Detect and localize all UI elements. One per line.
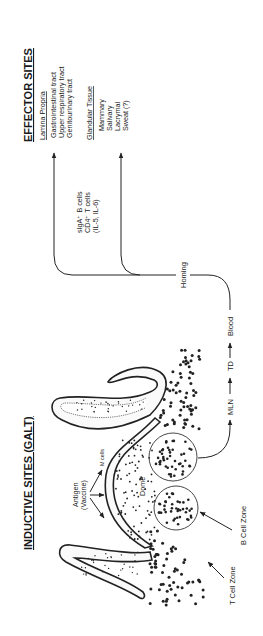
lymphocyte-dot	[128, 442, 130, 444]
lymphocyte-dot	[94, 411, 95, 412]
lymphocyte-dot	[180, 453, 183, 456]
lymphocyte-dot	[118, 402, 119, 403]
lymphocyte-dot	[168, 496, 171, 499]
lymphocyte-dot	[83, 573, 84, 574]
lymphocyte-dot	[179, 509, 182, 512]
lymphocyte-dot	[179, 363, 182, 366]
lymphocyte-dot	[145, 532, 147, 534]
lymphocyte-dot	[150, 542, 153, 545]
lymphocyte-dot	[85, 567, 86, 568]
lymphocyte-dot	[140, 445, 142, 447]
lymphocyte-dot	[140, 449, 142, 451]
cell-types-label: sIgA⁺ B cells CD4⁺ T cells (IL-5, IL-6)	[75, 191, 100, 233]
lymphocyte-dot	[159, 460, 162, 463]
lymphocyte-dot	[186, 507, 189, 510]
lymphocyte-dot	[189, 404, 192, 407]
lymphocyte-dot	[182, 405, 185, 408]
lymphocyte-dot	[124, 502, 126, 504]
lymphocyte-dot	[117, 476, 119, 478]
lymphocyte-dot	[150, 571, 153, 574]
lymphocyte-dot	[170, 510, 173, 513]
lymphocyte-dot	[149, 588, 152, 591]
lymphocyte-dot	[85, 573, 86, 574]
lymphocyte-dot	[183, 418, 186, 421]
lymphocyte-dot	[150, 566, 153, 569]
lymphocyte-dot	[176, 382, 179, 385]
lymphocyte-dot	[132, 506, 134, 508]
lymphocyte-dot	[161, 542, 164, 545]
lymphocyte-dot	[81, 409, 82, 410]
t-cell-zone-label: T Cell Zone	[228, 566, 237, 605]
lymphocyte-dot	[94, 400, 95, 401]
lymph-pathway: Blood TD MLN	[198, 317, 235, 458]
lymphocyte-dot	[91, 402, 92, 403]
lymphocyte-dot	[189, 382, 192, 385]
lymphocyte-dot	[180, 400, 183, 403]
lymphocyte-dot	[125, 464, 127, 466]
lymphocyte-dot	[174, 460, 177, 463]
lymphocyte-dot	[128, 473, 130, 475]
lymphocyte-dot	[81, 403, 82, 404]
lymphocyte-dot	[135, 448, 137, 450]
vaccine-text: (Vaccine)	[79, 480, 88, 510]
lymphocyte-dot	[188, 407, 191, 410]
lymphocyte-dot	[174, 593, 177, 596]
lymphocyte-dot	[175, 391, 178, 394]
lymphocyte-dot	[182, 426, 185, 429]
lymphocyte-dot	[165, 603, 168, 606]
lymphocyte-dot	[185, 359, 188, 362]
lymphocyte-dot	[137, 467, 139, 469]
lymphocyte-dot	[194, 391, 197, 394]
lymphocyte-dot	[124, 564, 125, 565]
lymphocyte-dot	[124, 513, 126, 515]
glandular-tissue-heading: Glandular Tissue	[85, 86, 94, 140]
lymphocyte-dot	[132, 404, 133, 405]
lymphocyte-dot	[149, 442, 151, 444]
lymphocyte-dot	[130, 400, 131, 401]
lymphocyte-dot	[145, 517, 147, 519]
lymphocyte-dot	[134, 470, 136, 472]
lymphocyte-dot	[188, 365, 191, 368]
lymphocyte-dot	[152, 501, 154, 503]
lymphocyte-dot	[137, 444, 139, 446]
lymphocyte-dot	[112, 405, 113, 406]
lymphocyte-dot	[118, 401, 119, 402]
lymphocyte-dot	[147, 510, 149, 512]
lymphocyte-dot	[166, 552, 169, 555]
lymphocyte-dot	[153, 539, 156, 542]
antigen-label: Antigen (Vaccine)	[71, 470, 104, 518]
galt-mucosal-immunity-diagram: EFFECTOR SITES Lamina Propria Gastrointe…	[0, 0, 263, 636]
lymphocyte-dot	[186, 405, 189, 408]
lymphocyte-dot	[154, 527, 156, 529]
b-cell-zone-label: B Cell Zone	[239, 506, 248, 545]
lymphocyte-dot	[139, 536, 141, 538]
lymphocyte-dot	[180, 573, 183, 576]
lymphocyte-dot	[179, 516, 182, 519]
lymphocyte-dot	[190, 594, 193, 597]
lymphocyte-dot	[134, 560, 135, 561]
lymphocyte-dot	[129, 481, 131, 483]
m-cells-label: M cells	[99, 449, 105, 466]
lymphocyte-dot	[154, 500, 156, 502]
lymphocyte-dot	[135, 484, 137, 486]
lymphocyte-dot	[171, 440, 174, 443]
lymphocyte-dot	[169, 451, 172, 454]
lymphocyte-dot	[137, 538, 139, 540]
lymphocyte-dot	[168, 449, 171, 452]
lymphocyte-dot	[198, 358, 201, 361]
b-cell-zone-arrow	[200, 512, 232, 530]
lymphocyte-dot	[132, 567, 133, 568]
lymphocyte-dot	[148, 457, 150, 459]
lymphocyte-dot	[172, 581, 175, 584]
lymphocyte-dot	[154, 559, 157, 562]
lymphocyte-dot	[171, 465, 174, 468]
lymphocyte-dot	[191, 354, 194, 357]
lymphocyte-dot	[162, 583, 165, 586]
lymphocyte-dot	[93, 562, 94, 563]
lymphocyte-dot	[182, 360, 185, 363]
lymphocyte-dot	[132, 572, 133, 573]
lymphocyte-dot	[100, 402, 101, 403]
lymphocyte-dot	[122, 568, 123, 569]
lymphocyte-dot	[191, 425, 194, 428]
lymphocyte-dot	[187, 581, 190, 584]
